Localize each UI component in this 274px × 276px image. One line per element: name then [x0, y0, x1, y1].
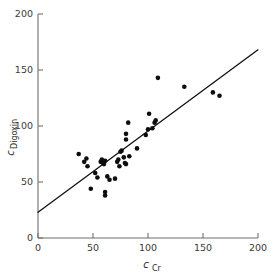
data-point — [153, 118, 158, 123]
data-point — [211, 90, 216, 95]
data-point — [150, 126, 155, 131]
x-axis-title-main: c — [143, 259, 149, 270]
y-axis-title: c Digoxin — [5, 119, 19, 156]
data-point — [95, 175, 100, 180]
data-point — [117, 164, 122, 169]
data-point — [103, 158, 108, 163]
x-axis-title-sub: Cr — [152, 264, 162, 273]
data-point — [116, 157, 121, 162]
data-points — [76, 76, 221, 198]
data-point — [84, 156, 89, 161]
data-point — [135, 146, 140, 151]
x-tick-label: 200 — [249, 242, 267, 253]
x-tick-label: 50 — [87, 242, 99, 253]
x-tick-label: 0 — [35, 242, 41, 253]
tick-marks — [38, 14, 258, 238]
y-axis-title-sub: Digoxin — [10, 119, 19, 149]
y-axis-title-main: c — [5, 150, 16, 156]
data-point — [119, 148, 124, 153]
data-point — [146, 127, 151, 132]
data-point — [147, 111, 152, 116]
y-tick-label: 200 — [15, 8, 33, 19]
data-point — [93, 171, 98, 176]
scatter-plot-figure: 050100150200050100150200 c Cr c Digoxin — [0, 0, 274, 276]
data-point — [76, 152, 81, 157]
data-point — [122, 155, 127, 160]
y-tick-label: 50 — [21, 176, 33, 187]
x-tick-label: 100 — [139, 242, 157, 253]
data-point — [124, 162, 129, 167]
data-point — [126, 120, 131, 125]
plot-canvas: 050100150200050100150200 c Cr c Digoxin — [0, 0, 274, 276]
data-point — [113, 176, 118, 181]
data-point — [182, 85, 187, 90]
y-tick-label: 150 — [15, 64, 33, 75]
data-point — [144, 133, 149, 138]
data-point — [89, 186, 94, 191]
tick-labels: 050100150200050100150200 — [15, 8, 267, 253]
data-point — [156, 76, 161, 81]
data-point — [217, 93, 222, 98]
data-point — [127, 154, 132, 159]
x-tick-label: 150 — [194, 242, 212, 253]
data-point — [85, 164, 90, 169]
x-axis-title: c Cr — [143, 259, 161, 273]
data-point — [124, 132, 129, 137]
data-point — [124, 137, 129, 142]
axes — [38, 14, 258, 238]
y-tick-label: 0 — [27, 232, 33, 243]
data-point — [107, 177, 112, 182]
data-point — [103, 193, 108, 198]
